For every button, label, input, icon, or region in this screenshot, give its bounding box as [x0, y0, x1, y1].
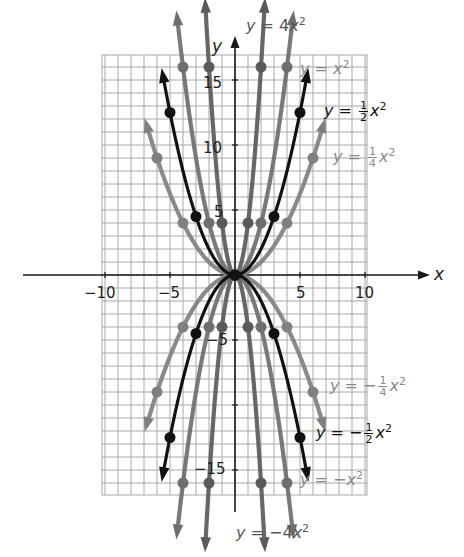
data-point [191, 211, 202, 222]
data-point [204, 478, 215, 489]
y-tick-label: 5 [214, 205, 224, 220]
y-tick-label: −5 [206, 333, 228, 348]
data-point [178, 62, 189, 73]
data-point [256, 322, 267, 333]
data-point [256, 62, 267, 73]
data-point [269, 328, 280, 339]
y-axis-label: y [212, 38, 222, 55]
data-point [308, 387, 319, 398]
data-point [282, 62, 293, 73]
y-tick-label: 15 [203, 76, 222, 91]
x-tick-label: −5 [158, 286, 180, 301]
label-y-quarter-x2: y = 14x2 [333, 146, 396, 169]
arrowhead-icon [173, 11, 183, 26]
x-tick-label: 10 [355, 286, 374, 301]
data-point [295, 432, 306, 443]
arrowhead-icon [259, 0, 269, 13]
data-point [282, 218, 293, 229]
arrowhead-icon [201, 0, 211, 13]
x-axis-label: x [434, 266, 444, 283]
arrowhead-icon [159, 466, 169, 482]
x-axis-arrow-icon [418, 271, 430, 280]
data-point [256, 218, 267, 229]
label-y-half-x2: y = 12x2 [324, 100, 387, 123]
fraction: 14 [368, 146, 377, 169]
label-y-x2: y = x2 [300, 59, 350, 77]
data-point [308, 153, 319, 164]
data-point [178, 322, 189, 333]
y-tick-label: 10 [203, 141, 222, 156]
data-point [152, 153, 163, 164]
data-point [165, 432, 176, 443]
label-y-neg-half-x2: y = −12x2 [316, 422, 392, 445]
x-tick-label: −10 [84, 286, 116, 301]
data-point [204, 62, 215, 73]
data-point [230, 270, 241, 281]
data-point [282, 478, 293, 489]
data-point [178, 218, 189, 229]
data-point [295, 107, 306, 118]
label-y-neg-x2: y = −x2 [300, 470, 363, 488]
fraction: 12 [359, 100, 368, 123]
data-point [282, 322, 293, 333]
data-point [243, 218, 254, 229]
label-y-neg-4x2: y = −4x2 [236, 523, 309, 541]
data-point [269, 211, 280, 222]
fraction: 14 [378, 375, 387, 398]
arrowhead-icon [144, 118, 154, 134]
data-point [178, 478, 189, 489]
data-point [204, 218, 215, 229]
arrowhead-icon [144, 416, 154, 432]
y-tick-label: −15 [194, 462, 226, 477]
data-point [191, 328, 202, 339]
data-point [256, 478, 267, 489]
data-point [152, 387, 163, 398]
data-point [165, 107, 176, 118]
data-point [243, 322, 254, 333]
arrowhead-icon [173, 524, 183, 539]
label-y-4x2: y = 4x2 [246, 16, 306, 34]
arrowhead-icon [201, 537, 211, 552]
label-y-neg-quarter-x2: y = −14x2 [330, 375, 406, 398]
x-tick-label: 5 [296, 286, 306, 301]
fraction: 12 [364, 422, 373, 445]
y-axis-arrow-icon [231, 36, 240, 48]
arrowhead-icon [159, 68, 169, 84]
parabola-family-chart [0, 0, 464, 557]
